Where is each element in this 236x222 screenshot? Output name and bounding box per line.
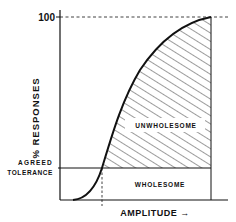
x-axis-label: AMPLITUDE → — [120, 208, 190, 218]
tolerance-label-line2: TOLERANCE — [7, 169, 53, 176]
unwholesome-label: UNWHOLESOME — [135, 122, 197, 129]
tolerance-label-line1: AGREED — [18, 159, 53, 166]
unwholesome-region — [95, 10, 215, 170]
y-axis-label: % RESPONSES — [30, 77, 41, 158]
wholesome-label: WHOLESOME — [135, 181, 186, 188]
y-tick-label-100: 100 — [38, 12, 55, 23]
response-curve-diagram: 100 % RESPONSES AGREED TOLERANCE UNWHOLE… — [0, 0, 236, 222]
